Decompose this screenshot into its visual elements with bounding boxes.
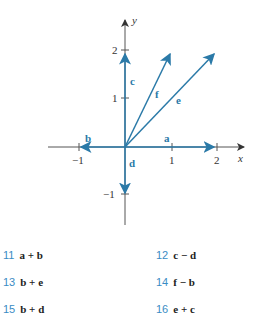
y-axis-label: y: [131, 14, 137, 26]
x-tick-neg1: −1: [72, 154, 84, 166]
vector-graph: −1 1 2 2 1 −1 x y a b c d e f: [0, 0, 269, 240]
exercise-expression: b + e: [20, 276, 43, 288]
x-tick-1: 1: [169, 154, 175, 166]
vector-label-c: c: [130, 75, 135, 87]
vector-e: [125, 54, 214, 147]
exercise-expression: a + b: [19, 249, 42, 261]
exercise-expression: e + c: [173, 303, 195, 315]
exercise-13: 13b + e: [3, 276, 43, 288]
vector-label-b: b: [85, 132, 91, 144]
exercise-11: 11a + b: [3, 249, 43, 261]
exercise-number: 14: [156, 276, 168, 288]
exercise-expression: c − d: [173, 249, 196, 261]
exercise-14: 14f − b: [156, 276, 195, 288]
exercise-12: 12c − d: [156, 249, 196, 261]
vector-label-d: d: [129, 157, 135, 169]
y-tick-neg1: −1: [103, 188, 115, 200]
vector-label-a: a: [164, 132, 170, 144]
exercise-number: 11: [3, 249, 14, 261]
exercise-number: 15: [3, 303, 15, 315]
y-tick-2: 2: [112, 44, 118, 56]
exercise-number: 13: [3, 276, 15, 288]
vector-label-f: f: [155, 88, 159, 100]
exercise-16: 16e + c: [156, 303, 195, 315]
y-tick-1: 1: [112, 92, 118, 104]
exercise-15: 15b + d: [3, 303, 44, 315]
exercise-number: 16: [156, 303, 168, 315]
exercise-expression: b + d: [20, 303, 44, 315]
exercise-expression: f − b: [173, 276, 195, 288]
vector-label-e: e: [176, 94, 181, 106]
x-axis-label: x: [237, 152, 243, 164]
exercise-number: 12: [156, 249, 168, 261]
x-tick-2: 2: [214, 154, 220, 166]
